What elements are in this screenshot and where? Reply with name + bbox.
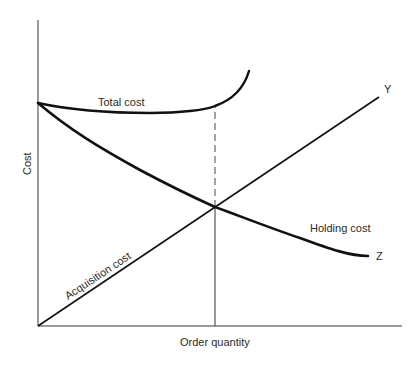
y-end-label: Y	[384, 83, 392, 95]
y-axis-label: Cost	[21, 152, 33, 175]
z-end-label: Z	[376, 250, 383, 262]
x-axis-label: Order quantity	[180, 336, 250, 348]
acquisition-cost-line	[38, 97, 379, 326]
eoq-cost-diagram: Total cost Holding cost Acquisition cost…	[0, 0, 420, 367]
holding-cost-label: Holding cost	[310, 222, 371, 234]
total-cost-label: Total cost	[98, 96, 144, 108]
acquisition-cost-label: Acquisition cost	[62, 249, 132, 301]
